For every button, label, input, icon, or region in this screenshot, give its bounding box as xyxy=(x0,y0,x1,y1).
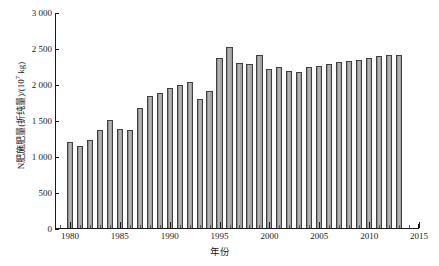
bar xyxy=(266,69,272,229)
bar xyxy=(246,64,252,229)
x-axis-title: 年份 xyxy=(0,247,439,258)
bar xyxy=(187,82,193,229)
bar xyxy=(87,140,93,229)
y-tick-label: 1 000 xyxy=(18,153,52,162)
x-tick-major xyxy=(269,222,270,228)
x-tick-label: 1980 xyxy=(50,231,90,241)
bar xyxy=(286,71,292,229)
x-tick-minor xyxy=(200,225,201,228)
bar xyxy=(197,99,203,229)
bar xyxy=(216,58,222,229)
x-tick-minor xyxy=(140,225,141,228)
x-tick-label: 1985 xyxy=(100,231,140,241)
bar xyxy=(97,130,103,229)
x-tick-label: 2015 xyxy=(399,231,439,241)
x-tick-minor xyxy=(259,225,260,228)
plot-area xyxy=(55,13,419,229)
x-tick-minor xyxy=(279,225,280,228)
x-tick-minor xyxy=(389,225,390,228)
bar xyxy=(316,66,322,229)
bar xyxy=(147,96,153,229)
x-tick-label: 2005 xyxy=(299,231,339,241)
bar-chart: N肥施肥量(折纯量)/(107 kg) 05001 0001 5002 0002… xyxy=(0,0,439,266)
x-tick-label: 1995 xyxy=(200,231,240,241)
x-tick-minor xyxy=(339,225,340,228)
x-tick-minor xyxy=(130,225,131,228)
x-tick-minor xyxy=(190,225,191,228)
x-tick-minor xyxy=(329,225,330,228)
x-tick-minor xyxy=(289,225,290,228)
x-tick-minor xyxy=(249,225,250,228)
x-tick-minor xyxy=(210,225,211,228)
x-tick-minor xyxy=(60,225,61,228)
x-tick-major xyxy=(120,222,121,228)
x-tick-minor xyxy=(409,225,410,228)
y-tick-label: 2 000 xyxy=(18,81,52,90)
x-tick-minor xyxy=(100,225,101,228)
bar xyxy=(366,58,372,229)
bar xyxy=(326,64,332,229)
bar xyxy=(376,56,382,229)
x-tick-minor xyxy=(110,225,111,228)
bar xyxy=(256,55,262,229)
bar xyxy=(396,55,402,229)
bar xyxy=(386,55,392,229)
x-tick-minor xyxy=(239,225,240,228)
bar xyxy=(117,129,123,229)
bar xyxy=(206,91,212,229)
x-tick-minor xyxy=(359,225,360,228)
y-tick-label: 2 500 xyxy=(18,45,52,54)
x-tick-minor xyxy=(160,225,161,228)
x-tick-label: 2010 xyxy=(349,231,389,241)
bar xyxy=(296,72,302,229)
bar xyxy=(157,93,163,229)
x-tick-minor xyxy=(299,225,300,228)
bar xyxy=(137,108,143,229)
x-axis-line xyxy=(55,228,419,229)
x-tick-major xyxy=(70,222,71,228)
x-tick-minor xyxy=(180,225,181,228)
x-tick-minor xyxy=(230,225,231,228)
x-tick-label: 1990 xyxy=(150,231,190,241)
bar xyxy=(306,67,312,229)
x-tick-minor xyxy=(349,225,350,228)
bar xyxy=(127,130,133,229)
x-tick-minor xyxy=(150,225,151,228)
x-tick-major xyxy=(369,222,370,228)
y-tick-label: 0 xyxy=(18,225,52,234)
x-tick-major xyxy=(319,222,320,228)
y-tick-label: 3 000 xyxy=(18,9,52,18)
y-tick-label: 500 xyxy=(18,189,52,198)
bar xyxy=(356,60,362,229)
x-tick-minor xyxy=(90,225,91,228)
bar xyxy=(67,142,73,229)
bar xyxy=(336,62,342,229)
y-tick-label: 1 500 xyxy=(18,117,52,126)
bar xyxy=(276,67,282,229)
bar xyxy=(107,120,113,229)
x-tick-minor xyxy=(379,225,380,228)
bar xyxy=(226,47,232,229)
bar xyxy=(167,88,173,229)
x-tick-major xyxy=(170,222,171,228)
x-tick-label: 2000 xyxy=(249,231,289,241)
x-tick-minor xyxy=(309,225,310,228)
x-tick-major xyxy=(419,222,420,228)
bar xyxy=(236,63,242,229)
bar xyxy=(77,146,83,229)
x-tick-minor xyxy=(399,225,400,228)
x-tick-minor xyxy=(80,225,81,228)
bar xyxy=(346,61,352,229)
y-tick-label-group: 05001 0001 5002 0002 5003 000 xyxy=(14,0,52,266)
x-tick-major xyxy=(220,222,221,228)
y-tick-mark xyxy=(55,229,59,230)
bar xyxy=(177,85,183,229)
